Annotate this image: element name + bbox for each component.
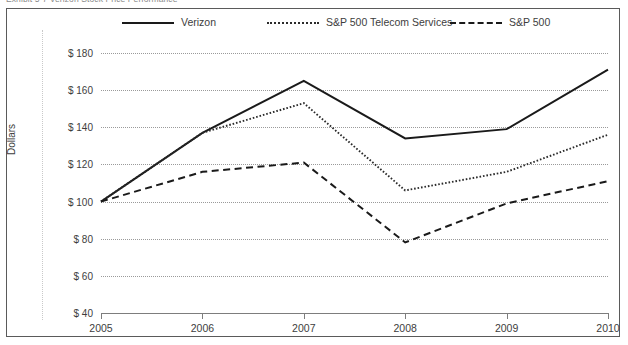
x-axis-tick [608,313,609,319]
legend-item-sp500-telecom-services: S&P 500 Telecom Services [267,14,452,30]
series-lines [101,53,608,313]
x-axis-tick [202,313,203,319]
plot-area [101,53,608,313]
y-axis-tick-label: $ 80 [49,233,93,244]
legend-item-verizon: Verizon [122,14,216,30]
legend-swatch-solid-icon [122,17,174,27]
x-axis-tick-label: 2009 [495,322,518,334]
chart-legend: Verizon S&P 500 Telecom Services S&P 500 [0,14,628,32]
legend-swatch-dotted-icon [267,17,319,27]
x-axis-tick [405,313,406,319]
x-axis-tick-label: 2010 [596,322,619,334]
y-axis-tick-label: $ 180 [49,48,93,59]
x-axis-tick-label: 2008 [394,322,417,334]
legend-label-sp500-telecom-services: S&P 500 Telecom Services [326,16,452,28]
y-axis-tick-label: $ 140 [49,122,93,133]
x-axis-tick-label: 2007 [292,322,315,334]
y-axis-tick-label: $ 60 [49,270,93,281]
left-dotted-rule [42,30,43,320]
y-axis-tick-label: $ 160 [49,85,93,96]
x-axis-line [101,313,608,314]
series-line-s-p-500-telecom-services [101,103,608,201]
x-axis-tick [507,313,508,319]
series-line-s-p-500 [101,163,608,243]
x-axis-tick-label: 2005 [89,322,112,334]
x-axis-tick [101,313,102,319]
legend-label-sp500: S&P 500 [509,16,550,28]
legend-item-sp500: S&P 500 [450,14,550,30]
x-axis-tick [304,313,305,319]
y-axis-tick-label: $ 40 [49,308,93,319]
y-axis-tick-label: $ 120 [49,159,93,170]
x-axis-tick-label: 2006 [191,322,214,334]
chart-container: Exhibit 5-7 Verizon Stock Price Performa… [0,0,628,345]
legend-swatch-dashed-icon [450,17,502,27]
legend-label-verizon: Verizon [181,16,216,28]
y-axis-title: Dollars [6,124,17,155]
exhibit-title: Exhibit 5-7 Verizon Stock Price Performa… [6,0,178,2]
series-line-verizon [101,70,608,202]
y-axis-tick-label: $ 100 [49,196,93,207]
